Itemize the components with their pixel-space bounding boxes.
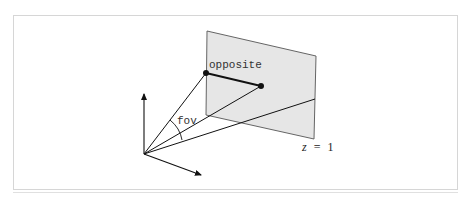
fov-label: fov (177, 115, 197, 127)
fov-diagram: opposite fov z = 1 (0, 0, 473, 197)
opposite-label: opposite (209, 59, 262, 71)
ray-to-opposite-start (144, 73, 206, 154)
plane-label: z = 1 (301, 137, 333, 154)
opposite-end-dot (258, 83, 264, 89)
right-axis (144, 154, 201, 175)
